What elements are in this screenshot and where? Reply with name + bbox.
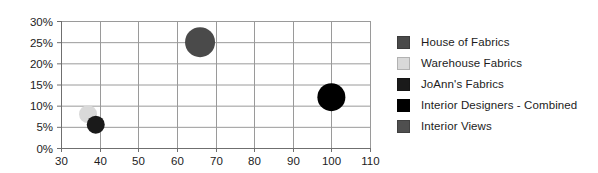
x-tick-label: 90 (287, 155, 300, 167)
y-tick-label: 20% (30, 58, 53, 70)
data-bubble (87, 116, 105, 134)
legend-swatch-icon (397, 99, 410, 112)
data-bubble (185, 27, 215, 57)
legend-item-label: Warehouse Fabrics (421, 57, 522, 70)
y-tick-label: 5% (36, 121, 53, 133)
x-tick-label: 80 (248, 155, 261, 167)
legend-item-label: JoAnn's Fabrics (421, 78, 504, 91)
legend-swatch-icon (397, 78, 410, 91)
legend-item-interior-views[interactable]: Interior Views (397, 116, 598, 137)
y-tick-label: 30% (30, 16, 53, 28)
chart-legend: House of Fabrics Warehouse Fabrics JoAnn… (397, 32, 598, 137)
x-tick-label: 50 (132, 155, 145, 167)
legend-swatch-icon (397, 57, 410, 70)
data-bubble (317, 83, 345, 111)
bubble-chart: 0%5%10%15%20%25%30%30405060708090100110 … (0, 0, 598, 173)
y-tick-label: 0% (36, 143, 53, 155)
y-tick-label: 25% (30, 37, 53, 49)
x-tick-label: 100 (322, 155, 341, 167)
legend-item-warehouse-fabrics[interactable]: Warehouse Fabrics (397, 53, 598, 74)
x-tick-label: 110 (361, 155, 379, 167)
legend-swatch-icon (397, 120, 410, 133)
legend-item-interior-designers-combined[interactable]: Interior Designers - Combined (397, 95, 598, 116)
legend-swatch-icon (397, 36, 410, 49)
legend-item-house-of-fabrics[interactable]: House of Fabrics (397, 32, 598, 53)
legend-item-label: House of Fabrics (421, 36, 510, 49)
y-tick-label: 15% (30, 79, 53, 91)
x-tick-label: 60 (171, 155, 184, 167)
x-tick-label: 40 (94, 155, 107, 167)
plot-area: 0%5%10%15%20%25%30%30405060708090100110 (0, 0, 380, 173)
legend-item-label: Interior Designers - Combined (421, 99, 577, 112)
x-tick-label: 30 (55, 155, 68, 167)
legend-item-joanns-fabrics[interactable]: JoAnn's Fabrics (397, 74, 598, 95)
plot-svg: 0%5%10%15%20%25%30%30405060708090100110 (0, 0, 380, 173)
y-tick-label: 10% (30, 100, 53, 112)
x-tick-label: 70 (210, 155, 223, 167)
legend-item-label: Interior Views (421, 120, 492, 133)
